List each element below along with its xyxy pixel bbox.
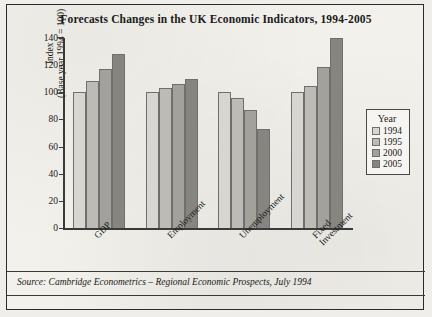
legend-item-1995[interactable]: 1995: [372, 137, 402, 147]
legend-item-label: 1995: [383, 137, 402, 147]
bar-fixed-investment-1995[interactable]: [304, 86, 317, 229]
y-axis-tick-label: 60: [49, 142, 59, 152]
legend-title: Year: [372, 113, 402, 124]
legend-swatch-icon: [372, 149, 380, 157]
figure-frame: Forecasts Changes in the UK Economic Ind…: [6, 4, 424, 310]
legend: Year 1994199520002005: [366, 109, 410, 175]
bar-employment-2000[interactable]: [172, 84, 185, 228]
bar-employment-1995[interactable]: [159, 88, 172, 228]
bar-group: [63, 38, 136, 228]
legend-items: 1994199520002005: [372, 126, 402, 169]
chart-title: Forecasts Changes in the UK Economic Ind…: [7, 13, 425, 25]
legend-item-2000[interactable]: 2000: [372, 148, 402, 158]
bar-fixed-investment-1994[interactable]: [291, 92, 304, 228]
legend-swatch-icon: [372, 160, 380, 168]
legend-item-1994[interactable]: 1994: [372, 126, 402, 136]
bar-employment-1994[interactable]: [146, 92, 159, 228]
bar-fixed-investment-2005[interactable]: [330, 38, 343, 228]
legend-swatch-icon: [372, 127, 380, 135]
y-axis-tick-mark: [59, 228, 63, 229]
legend-item-label: 2005: [383, 159, 402, 169]
plot-area: Index (Base year 1994 = 100) 02040608010…: [63, 38, 353, 228]
y-axis-tick-label: 100: [44, 87, 58, 97]
y-axis-tick-label: 0: [53, 223, 58, 233]
legend-swatch-icon: [372, 138, 380, 146]
y-axis-tick-label: 140: [44, 33, 58, 43]
bar-fixed-investment-2000[interactable]: [317, 67, 330, 229]
bar-gdp-1994[interactable]: [73, 92, 86, 228]
bar-unemployment-1995[interactable]: [231, 98, 244, 228]
legend-item-label: 2000: [383, 148, 402, 158]
bar-gdp-2005[interactable]: [112, 54, 125, 228]
footer-rule-bottom: [7, 295, 425, 296]
bar-groups: [63, 38, 353, 228]
footer-rule-top: [7, 271, 425, 272]
legend-item-2005[interactable]: 2005: [372, 159, 402, 169]
y-axis-tick-label: 40: [49, 169, 59, 179]
legend-item-label: 1994: [383, 126, 402, 136]
y-axis-tick-label: 20: [49, 196, 59, 206]
y-axis-tick-label: 120: [44, 60, 58, 70]
bar-gdp-2000[interactable]: [99, 69, 112, 228]
bar-gdp-1995[interactable]: [86, 81, 99, 228]
bar-group: [281, 38, 354, 228]
y-axis-title-line1: Index: [45, 9, 56, 98]
y-axis-tick-label: 80: [49, 114, 59, 124]
source-note: Source: Cambridge Econometrics – Regiona…: [17, 277, 312, 287]
bar-unemployment-1994[interactable]: [218, 92, 231, 228]
bar-unemployment-2000[interactable]: [244, 110, 257, 228]
